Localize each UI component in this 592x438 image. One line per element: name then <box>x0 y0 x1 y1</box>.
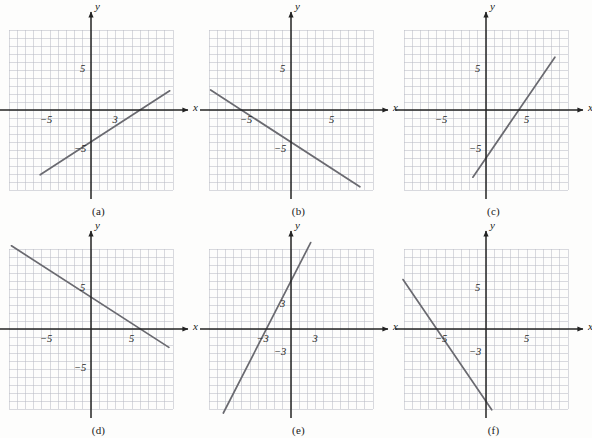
plot-line-a <box>40 91 170 175</box>
tick-label-f-y-0: 5 <box>475 282 480 293</box>
tick-label-c-x-2: 5 <box>524 114 529 125</box>
y-axis-label: y <box>295 0 300 12</box>
x-axis-label: x <box>193 101 198 113</box>
tick-label-b-x-1: −5 <box>240 114 252 125</box>
tick-label-a-y-0: 5 <box>80 63 85 74</box>
panel-caption-f: (f) <box>395 424 592 436</box>
plot-line-d <box>11 246 168 348</box>
tick-label-b-x-2: 5 <box>329 114 334 125</box>
plot-canvas-c <box>395 0 592 200</box>
x-axis-label: x <box>588 320 592 332</box>
figure-root: xy5−53−5(a)xy5−55−5(b)xy5−55−5(c)xy5−55−… <box>0 0 592 438</box>
x-axis-label: x <box>588 101 592 113</box>
plot-line-f <box>403 280 492 410</box>
graph-panel-c: xy5−55−5(c) <box>395 0 592 219</box>
plot-canvas-a <box>0 0 197 200</box>
panel-caption-e: (e) <box>200 424 397 436</box>
graph-panel-e: xy3−33−3(e) <box>200 219 397 438</box>
plot-line-c <box>473 57 555 177</box>
panel-caption-a: (a) <box>0 205 197 217</box>
tick-label-b-y-3: −5 <box>274 143 286 154</box>
x-axis-label: x <box>193 320 198 332</box>
tick-label-a-x-2: 3 <box>113 114 118 125</box>
tick-label-e-y-3: −3 <box>274 346 286 357</box>
plot-canvas-d <box>0 219 197 419</box>
y-axis-label: y <box>490 0 495 12</box>
tick-label-a-y-3: −5 <box>74 143 86 154</box>
tick-label-b-y-0: 5 <box>280 63 285 74</box>
tick-label-d-x-2: 5 <box>129 333 134 344</box>
tick-label-c-y-0: 5 <box>475 63 480 74</box>
plot-canvas-f <box>395 219 592 419</box>
y-axis-label: y <box>490 219 495 231</box>
plot-canvas-e <box>200 219 397 419</box>
graph-panel-f: xy5−55−3(f) <box>395 219 592 438</box>
y-axis-label: y <box>95 219 100 231</box>
y-axis-label: y <box>295 219 300 231</box>
graph-panel-a: xy5−53−5(a) <box>0 0 197 219</box>
tick-label-e-y-0: 3 <box>280 298 285 309</box>
panel-caption-c: (c) <box>395 205 592 217</box>
tick-label-e-x-1: −3 <box>256 333 268 344</box>
tick-label-d-y-0: 5 <box>80 282 85 293</box>
y-axis-label: y <box>95 0 100 12</box>
tick-label-c-y-3: −5 <box>469 143 481 154</box>
plot-line-e <box>223 243 310 413</box>
tick-label-a-x-1: −5 <box>40 114 52 125</box>
panel-caption-d: (d) <box>0 424 197 436</box>
tick-label-c-x-1: −5 <box>435 114 447 125</box>
tick-label-e-x-2: 3 <box>313 333 318 344</box>
tick-label-d-x-1: −5 <box>40 333 52 344</box>
tick-label-f-y-3: −3 <box>469 346 481 357</box>
tick-label-f-x-1: −5 <box>435 333 447 344</box>
tick-label-f-x-2: 5 <box>524 333 529 344</box>
graph-panel-d: xy5−55−5(d) <box>0 219 197 438</box>
tick-label-d-y-3: −5 <box>74 362 86 373</box>
plot-canvas-b <box>200 0 397 200</box>
plot-line-b <box>211 90 360 187</box>
graph-panel-b: xy5−55−5(b) <box>200 0 397 219</box>
panel-caption-b: (b) <box>200 205 397 217</box>
